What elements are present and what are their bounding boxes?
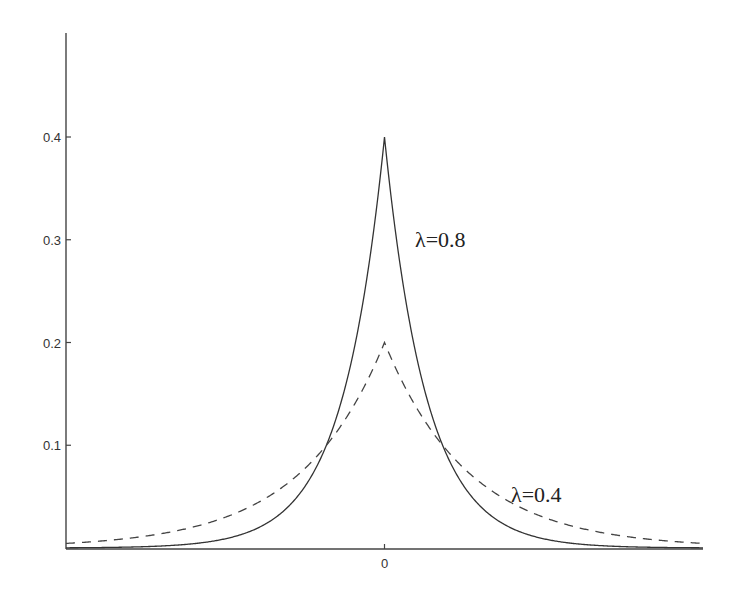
laplace-density-chart: 0.10.20.30.4 0 λ=0.8 λ=0.4 xyxy=(0,0,739,601)
curve-lambda-0.4 xyxy=(66,343,703,544)
y-tick-label: 0.4 xyxy=(43,130,61,145)
x-ticks: 0 xyxy=(381,544,388,571)
y-tick-label: 0.3 xyxy=(43,233,61,248)
label-lambda-0.8: λ=0.8 xyxy=(415,227,466,252)
x-tick-label: 0 xyxy=(381,556,388,571)
label-lambda-0.4: λ=0.4 xyxy=(511,482,562,507)
y-ticks: 0.10.20.30.4 xyxy=(43,130,71,453)
y-tick-label: 0.2 xyxy=(43,336,61,351)
curves xyxy=(66,137,703,548)
y-tick-label: 0.1 xyxy=(43,438,61,453)
axes xyxy=(66,33,703,549)
